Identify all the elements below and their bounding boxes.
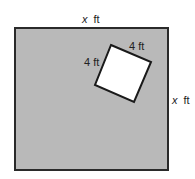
inner-left-label: 4 ft	[84, 56, 99, 68]
inner-top-label: 4 ft	[129, 40, 144, 52]
outer-top-label: x ft	[81, 13, 100, 25]
diagram-canvas: x ft x ft 4 ft 4 ft	[0, 0, 195, 179]
outer-square	[15, 28, 168, 170]
outer-right-label: x ft	[171, 94, 190, 106]
